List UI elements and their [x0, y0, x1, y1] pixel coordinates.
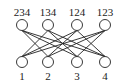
edges — [22, 31, 105, 57]
bottom-node-label: 3 — [74, 70, 80, 82]
top-node-label: 123 — [97, 6, 114, 18]
bottom-node-label: 4 — [102, 70, 108, 82]
top-node-234 — [17, 20, 28, 31]
bottom-node-2 — [43, 57, 54, 68]
bottom-node-1 — [17, 57, 28, 68]
bottom-node-label: 2 — [45, 70, 51, 82]
bottom-node-4 — [100, 57, 111, 68]
top-node-label: 124 — [69, 6, 86, 18]
top-node-123 — [100, 20, 111, 31]
top-node-134 — [43, 20, 54, 31]
bipartite-graph: 2341341241231234 — [0, 0, 129, 84]
bottom-node-3 — [72, 57, 83, 68]
top-node-124 — [72, 20, 83, 31]
top-node-label: 134 — [40, 6, 57, 18]
bottom-node-label: 1 — [19, 70, 25, 82]
top-node-label: 234 — [14, 6, 31, 18]
